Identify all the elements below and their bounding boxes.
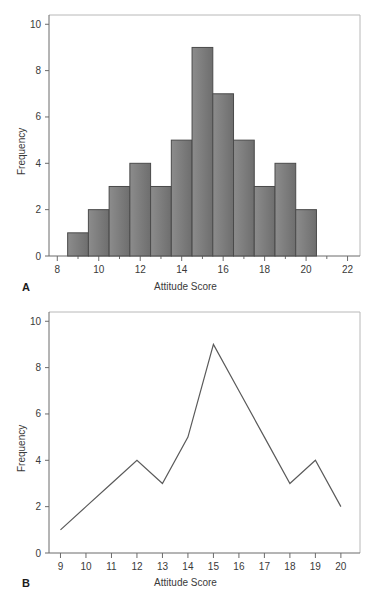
histogram-bar — [130, 163, 151, 256]
y-tick-label: 4 — [35, 158, 41, 169]
figure-container: 0246810810121416182022 A Attitude Score … — [0, 0, 371, 597]
plot-frame — [49, 312, 360, 553]
y-tick-label: 4 — [35, 455, 41, 466]
histogram-bar — [88, 210, 109, 256]
x-tick-label: 9 — [58, 561, 64, 572]
x-tick-label: 14 — [182, 561, 194, 572]
panel-b-frequency-polygon: 024681091011121314151617181920 B Attitud… — [0, 300, 371, 597]
line-plot: 024681091011121314151617181920 — [0, 300, 371, 597]
histogram-bar — [296, 210, 317, 256]
x-tick-label: 12 — [131, 561, 143, 572]
x-tick-label: 17 — [259, 561, 271, 572]
y-tick-label: 8 — [35, 362, 41, 373]
x-tick-label: 11 — [106, 561, 117, 572]
histogram-bar — [68, 233, 89, 256]
y-tick-label: 2 — [35, 204, 41, 215]
y-tick-label: 2 — [35, 501, 41, 512]
x-tick-label: 22 — [342, 264, 354, 275]
x-tick-label: 16 — [233, 561, 245, 572]
x-tick-label: 15 — [208, 561, 220, 572]
y-tick-label: 8 — [35, 65, 41, 76]
panel-b-y-axis-title: Frequency — [16, 425, 27, 472]
histogram-bar — [254, 186, 275, 256]
histogram-bar — [213, 94, 234, 256]
x-tick-label: 19 — [310, 561, 322, 572]
x-tick-label: 18 — [284, 561, 296, 572]
histogram-bar — [171, 140, 192, 256]
histogram-plot: 0246810810121416182022 — [0, 0, 371, 300]
panel-a-histogram: 0246810810121416182022 A Attitude Score … — [0, 0, 371, 300]
x-tick-label: 13 — [157, 561, 169, 572]
x-tick-label: 12 — [135, 264, 147, 275]
y-tick-label: 10 — [30, 316, 42, 327]
panel-a-y-axis-title: Frequency — [16, 128, 27, 175]
frequency-polygon-line — [60, 344, 340, 529]
histogram-bar — [151, 186, 172, 256]
histogram-bar — [192, 47, 213, 256]
panel-b-x-axis-title: Attitude Score — [0, 577, 371, 588]
y-tick-label: 0 — [35, 251, 41, 262]
y-tick-label: 6 — [35, 111, 41, 122]
y-tick-label: 0 — [35, 548, 41, 559]
x-tick-label: 14 — [176, 264, 188, 275]
x-tick-label: 10 — [93, 264, 105, 275]
x-tick-label: 20 — [301, 264, 313, 275]
x-tick-label: 10 — [80, 561, 92, 572]
y-tick-label: 10 — [30, 19, 42, 30]
x-tick-label: 16 — [218, 264, 230, 275]
histogram-bar — [275, 163, 296, 256]
panel-a-x-axis-title: Attitude Score — [0, 281, 371, 292]
x-tick-label: 8 — [55, 264, 61, 275]
y-tick-label: 6 — [35, 408, 41, 419]
x-tick-label: 18 — [259, 264, 271, 275]
x-tick-label: 20 — [335, 561, 347, 572]
histogram-bar — [109, 186, 130, 256]
histogram-bar — [234, 140, 255, 256]
